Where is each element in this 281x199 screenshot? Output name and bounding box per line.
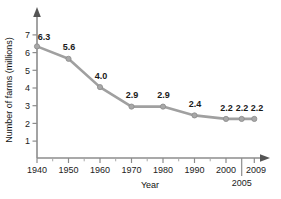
x-tick-label: 2009 (246, 165, 266, 175)
data-point-label: 6.3 (38, 32, 51, 42)
y-tick-label: 1 (25, 136, 30, 146)
data-point-label: 2.9 (126, 90, 139, 100)
y-axis-title: Number of farms (millions) (4, 37, 14, 143)
x-axis-title: Year (141, 180, 159, 190)
data-point-marker (223, 116, 228, 121)
chart-page: 1 2 3 4 5 6 7 (0, 0, 281, 199)
y-tick-label: 6 (25, 48, 30, 58)
line-chart: 1 2 3 4 5 6 7 (0, 0, 281, 199)
x-tick-label: 2000 (216, 165, 236, 175)
y-tick-label: 4 (25, 83, 30, 93)
x-tick-label: 1960 (90, 165, 110, 175)
x-axis-arrow-icon (260, 154, 270, 162)
x-tick-label-2005: 2005 (232, 178, 252, 188)
data-point-label: 4.0 (95, 71, 108, 81)
data-point-marker (129, 104, 134, 109)
data-point-label: 2.2 (220, 103, 233, 113)
data-point-marker (34, 44, 39, 49)
data-point-label: 5.6 (63, 42, 76, 52)
y-axis-arrow-icon (33, 7, 41, 17)
x-tick-label: 1980 (153, 165, 173, 175)
x-tick-label: 1990 (184, 165, 204, 175)
data-point-label: 2.4 (189, 99, 202, 109)
data-point-labels: 6.3 5.6 4.0 2.9 2.9 2.4 2.2 2.2 2.2 (38, 32, 264, 113)
y-tick-label: 3 (25, 101, 30, 111)
y-tick-label: 7 (25, 30, 30, 40)
data-point-label: 2.2 (236, 103, 249, 113)
data-point-marker (66, 56, 71, 61)
data-point-label: 2.9 (157, 90, 170, 100)
x-tick-label: 1970 (121, 165, 141, 175)
x-tick-label: 1940 (27, 165, 47, 175)
data-point-marker (97, 85, 102, 90)
y-tick-label: 5 (25, 66, 30, 76)
data-point-marker (239, 116, 244, 121)
y-tick-label: 2 (25, 119, 30, 129)
data-point-marker (160, 104, 165, 109)
data-point-marker (192, 113, 197, 118)
data-point-label: 2.2 (251, 103, 264, 113)
y-axis-tick-labels: 1 2 3 4 5 6 7 (25, 30, 30, 146)
x-tick-label: 1950 (58, 165, 78, 175)
data-point-marker (252, 116, 257, 121)
